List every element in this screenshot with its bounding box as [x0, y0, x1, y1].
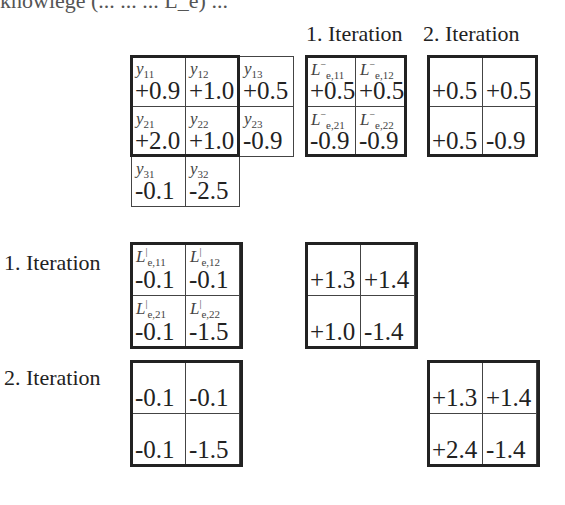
cell: +0.5	[429, 107, 483, 157]
cell: -0.9	[483, 107, 537, 157]
cell: L−e,12+0.5	[356, 57, 405, 107]
sum-iter1: +1.3 +1.4 +1.0 -1.4	[306, 243, 415, 348]
cell: L−e,22-0.9	[356, 107, 405, 157]
cell: L|e,11-0.1	[132, 244, 186, 296]
cell: -1.5	[186, 414, 240, 466]
cell-y21: y21+2.0	[132, 107, 186, 157]
cell-y12: y12+1.0	[186, 57, 240, 107]
cell-y13: y13+0.5	[240, 57, 294, 107]
header-iteration-2: 2. Iteration	[423, 21, 520, 47]
cropped-text-line: knowlege (... ... ... L_e) ...	[0, 0, 228, 14]
Le-minus-iter1: L−e,11+0.5 L−e,12+0.5 L−e,21-0.9 L−e,22-…	[306, 56, 405, 157]
cell: -1.4	[483, 414, 537, 466]
cell: L|e,21-0.1	[132, 296, 186, 348]
row-label-iteration-1: 1. Iteration	[4, 250, 101, 276]
Le-bar-iter2: -0.1 -0.1 -0.1 -1.5	[131, 361, 240, 466]
cell: +1.0	[307, 296, 361, 348]
cell: +0.5	[483, 57, 537, 107]
sum-iter2: +1.3 +1.4 +2.4 -1.4	[428, 361, 537, 466]
cell-y32: y32-2.5	[186, 157, 240, 207]
cell: L|e,22-1.5	[186, 296, 240, 348]
cell: L−e,21-0.9	[307, 107, 356, 157]
cell: +2.4	[429, 414, 483, 466]
cell-y22: y22+1.0	[186, 107, 240, 157]
cell: +0.5	[429, 57, 483, 107]
Le-bar-iter1: L|e,11-0.1 L|e,12-0.1 L|e,21-0.1 L|e,22-…	[131, 243, 240, 348]
cell: +1.4	[361, 244, 415, 296]
cell-y31: y31-0.1	[132, 157, 186, 207]
cell: L−e,11+0.5	[307, 57, 356, 107]
cell: -1.4	[361, 296, 415, 348]
row-label-iteration-2: 2. Iteration	[4, 365, 101, 391]
cell: +1.3	[429, 362, 483, 414]
cell: -0.1	[132, 362, 186, 414]
cell: -0.1	[186, 362, 240, 414]
cell: +1.3	[307, 244, 361, 296]
cell: L|e,12-0.1	[186, 244, 240, 296]
cell-y11: y11+0.9	[132, 57, 186, 107]
Le-minus-iter2: +0.5 +0.5 +0.5 -0.9	[428, 56, 537, 157]
header-iteration-1: 1. Iteration	[306, 21, 403, 47]
cell: -0.1	[132, 414, 186, 466]
y-matrix: y11+0.9 y12+1.0 y13+0.5 y21+2.0 y22+1.0 …	[131, 56, 294, 207]
cell-y23: y23-0.9	[240, 107, 294, 157]
cell: +1.4	[483, 362, 537, 414]
